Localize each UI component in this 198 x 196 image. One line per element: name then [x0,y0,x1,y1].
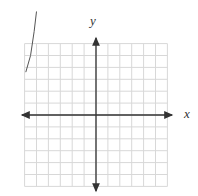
y-axis-label: y [90,13,96,29]
x-axis-label: x [184,106,190,122]
plotted-curve [26,11,37,72]
graph-canvas [0,0,198,196]
